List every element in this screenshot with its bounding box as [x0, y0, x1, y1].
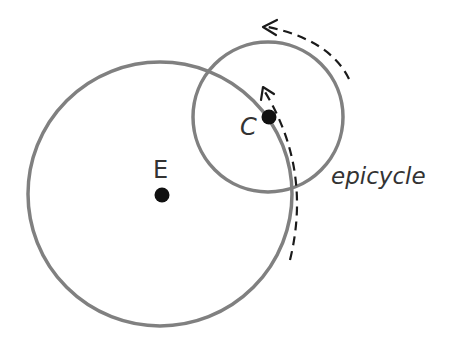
epicycle-diagram: E C epicycle	[0, 0, 451, 349]
epicycle-label: epicycle	[331, 163, 426, 189]
earth-point	[155, 188, 170, 203]
center-label: C	[240, 113, 257, 141]
center-point	[262, 110, 277, 125]
earth-label: E	[153, 156, 168, 184]
epicycle-motion-arrow	[263, 20, 349, 79]
